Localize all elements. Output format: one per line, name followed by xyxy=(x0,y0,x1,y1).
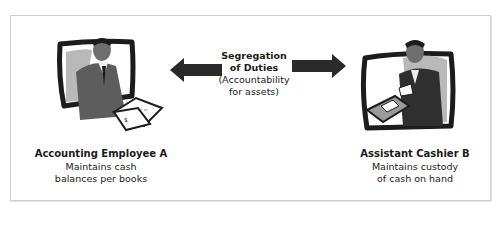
assistant-cashier-desc-line2: of cash on hand xyxy=(350,173,480,186)
svg-text:,, ,,: ,, ,, xyxy=(138,104,148,111)
accounting-employee-desc-line1: Maintains cash xyxy=(26,161,176,174)
center-subtitle-line2: for assets) xyxy=(216,86,292,98)
center-subtitle-line1: (Accountability xyxy=(216,74,292,86)
cashier-handling-cash-illustration xyxy=(359,40,459,135)
right-arrow-icon xyxy=(292,54,346,82)
employee-reading-ledger-illustration: ,, ,, $ xyxy=(54,36,174,136)
assistant-cashier-caption: Assistant Cashier B Maintains custody of… xyxy=(350,148,480,186)
accounting-employee-title: Accounting Employee A xyxy=(26,148,176,161)
left-arrow-icon xyxy=(170,58,222,86)
svg-text:$: $ xyxy=(124,116,128,123)
assistant-cashier-desc-line1: Maintains custody xyxy=(350,161,480,174)
accounting-employee-caption: Accounting Employee A Maintains cash bal… xyxy=(26,148,176,186)
center-title-line1: Segregation xyxy=(216,50,292,62)
center-title-line2: of Duties xyxy=(216,62,292,74)
segregation-of-duties-label: Segregation of Duties (Accountability fo… xyxy=(216,50,292,98)
assistant-cashier-title: Assistant Cashier B xyxy=(350,148,480,161)
accounting-employee-desc-line2: balances per books xyxy=(26,173,176,186)
